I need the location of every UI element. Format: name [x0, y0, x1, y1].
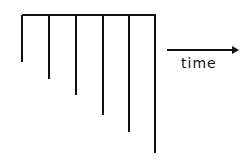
- arrow-right-icon: [167, 46, 239, 54]
- time-label: time: [181, 55, 217, 71]
- time-diagram: time: [0, 0, 251, 160]
